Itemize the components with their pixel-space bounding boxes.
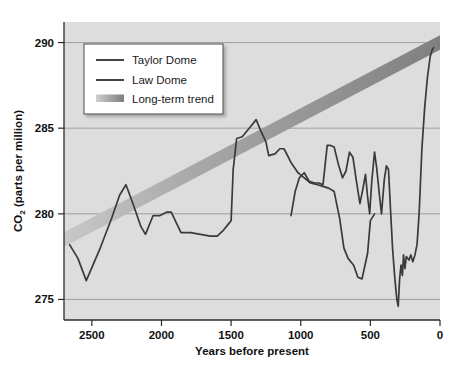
- co2-ice-core-line-chart: 275280285290 25002000150010005000 Years …: [0, 0, 458, 366]
- x-tick-label-2000: 2000: [149, 329, 175, 341]
- y-tick-label-285: 285: [35, 122, 55, 134]
- x-tick-label-1000: 1000: [288, 329, 314, 341]
- legend-swatch-band-long-term-trend: [96, 95, 124, 103]
- y-axis-title-main: CO: [12, 215, 24, 232]
- legend-label-long-term-trend: Long-term trend: [132, 93, 214, 105]
- x-tick-label-1500: 1500: [218, 329, 244, 341]
- legend-label-taylor-dome: Taylor Dome: [132, 54, 197, 66]
- y-tick-label-280: 280: [35, 208, 54, 220]
- x-tick-label-0: 0: [437, 329, 443, 341]
- x-tick-label-2500: 2500: [79, 329, 105, 341]
- y-tick-label-290: 290: [35, 37, 54, 49]
- x-tick-label-500: 500: [361, 329, 380, 341]
- legend-label-law-dome: Law Dome: [132, 74, 187, 86]
- chart-figure: 275280285290 25002000150010005000 Years …: [0, 0, 458, 366]
- y-tick-label-275: 275: [35, 293, 55, 305]
- x-axis-title: Years before present: [195, 345, 309, 357]
- y-axis-title-rest: (parts per million): [12, 110, 24, 210]
- chart-legend: Taylor Dome Law Dome Long-term trend: [84, 44, 223, 114]
